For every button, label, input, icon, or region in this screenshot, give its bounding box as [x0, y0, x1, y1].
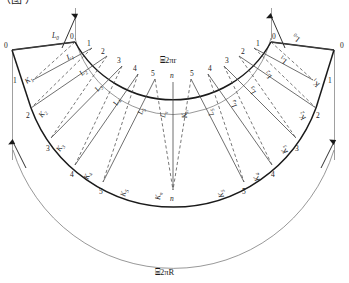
right-dashed-generators [173, 42, 316, 190]
outer-tick-right-3: 3 [295, 144, 299, 153]
generator-L4-right [208, 74, 272, 165]
outer-tick-right-2: 2 [316, 111, 320, 120]
label-L1: L1 [64, 50, 76, 63]
label-Kn-right: Kn [179, 110, 190, 120]
label-L2-right: L2 [262, 69, 275, 82]
inner-tick-right-4: 4 [208, 64, 212, 73]
left-dashed-labels: K1 K2 K3 K4 K5 Kn [22, 74, 164, 202]
outer-heavy-arc-group [31, 108, 316, 207]
inner-tick-left-5: 5 [151, 69, 155, 78]
outer-tick-right-4: 4 [271, 170, 275, 179]
label-L1-right: L1 [277, 54, 289, 67]
outer-heavy-arc [31, 108, 316, 207]
label-L3-right: L3 [246, 85, 259, 98]
generator-Kn-right-dashed [173, 79, 191, 190]
left-outer-panel-edges [12, 42, 75, 108]
outer-tick-left-1: 1 [13, 76, 17, 85]
label-K3: K3 [54, 141, 67, 154]
figure-root: （图 ） [0, 0, 349, 283]
outer-tick-center-n: n [170, 194, 174, 203]
inner-tick-right-3: 3 [225, 56, 229, 65]
axis-lines [13, 8, 335, 160]
generator-K2-dashed [31, 48, 92, 108]
label-K4: K4 [81, 170, 94, 182]
right-outer-panel-edges [271, 42, 334, 108]
outer-tick-right-1: 1 [328, 76, 332, 85]
generator-K3-right-dashed [239, 56, 296, 138]
inner-tick-left-2: 2 [101, 47, 105, 56]
development-diagram: 0 1 2 3 4 5 n 5 4 3 2 1 0 0 1 2 3 4 5 n … [0, 0, 349, 283]
label-Ln: Ln [158, 110, 169, 119]
generator-L0 [12, 42, 75, 50]
generator-Kn-dashed [155, 79, 173, 190]
outer-thin-arc [13, 150, 334, 268]
generator-L0-right [271, 42, 334, 50]
inner-tick-right-0: 0 [272, 32, 276, 41]
inner-arc-label: ⌸2πr [160, 55, 177, 65]
label-L0-right: L0 [290, 32, 302, 45]
outer-tick-left-0: 0 [4, 41, 8, 50]
generator-L2 [31, 56, 107, 108]
outer-tick-right-0: 0 [340, 41, 344, 50]
inner-tick-left-1: 1 [87, 39, 91, 48]
generator-K4-dashed [75, 66, 122, 165]
outer-tick-left-5: 5 [99, 187, 103, 196]
left-solid-generators [12, 42, 173, 190]
generator-L5-right [191, 79, 244, 182]
label-K2: K2 [36, 107, 49, 120]
generator-L2-right [239, 56, 316, 108]
label-L0: L0 [51, 31, 59, 41]
outer-tick-left-3: 3 [46, 144, 50, 153]
outer-arc-label: ⌸2πR [155, 267, 175, 277]
inner-tick-right-5: 5 [190, 69, 194, 78]
left-dashed-generators [31, 42, 173, 190]
outer-tick-left-2: 2 [26, 111, 30, 120]
inner-tick-left-3: 3 [117, 56, 121, 65]
label-K2-right: K2 [296, 110, 309, 123]
generator-L5 [103, 79, 155, 182]
inner-tick-left-4: 4 [133, 64, 137, 73]
inner-tick-right-1: 1 [256, 39, 260, 48]
outer-thin-arc-group [13, 150, 334, 268]
inner-tick-center-n: n [170, 71, 174, 80]
label-K4-right: K4 [250, 171, 263, 183]
inner-tick-left-0: 0 [70, 32, 74, 41]
label-L3: L3 [92, 82, 105, 95]
outer-arc-tick-numbers: 0 1 2 3 4 5 n 5 4 3 2 1 0 [4, 41, 344, 203]
outer-tick-left-4: 4 [70, 170, 74, 179]
outer-tick-right-5: 5 [242, 187, 246, 196]
generator-L4 [75, 74, 138, 165]
generator-K5-dashed [103, 74, 138, 182]
label-Kn: Kn [153, 191, 164, 201]
inner-tick-right-2: 2 [241, 47, 245, 56]
